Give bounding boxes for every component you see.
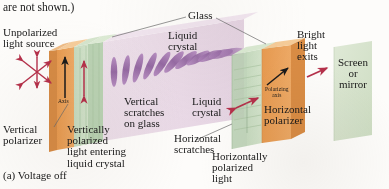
bright-light-exits-arrow bbox=[307, 68, 327, 77]
label-horizontal-polarizer: Horizontal polarizer bbox=[264, 104, 311, 126]
label-vertical-polarizer: Vertical polarizer bbox=[3, 124, 42, 146]
label-unpolarized-light-source: Unpolarized light source bbox=[3, 27, 57, 49]
label-liquid-crystal-mid: Liquid crystal bbox=[192, 96, 221, 118]
label-glass: Glass bbox=[188, 10, 212, 21]
figure-canvas: are not shown.) Unpolarized light source… bbox=[0, 0, 389, 189]
label-vertically-polarized-light: Vertically polarized light entering liqu… bbox=[67, 124, 126, 169]
label-bright-light-exits: Bright light exits bbox=[297, 29, 325, 63]
continuation-note: are not shown.) bbox=[3, 2, 74, 14]
figure-caption: (a) Voltage off bbox=[3, 170, 67, 181]
label-screen-or-mirror: Screen or mirror bbox=[338, 57, 368, 91]
label-horizontally-polarized-light: Horizontally polarized light bbox=[212, 151, 268, 185]
label-axis: Axis bbox=[58, 99, 69, 105]
label-vertical-scratches-on-glass: Vertical scratches on glass bbox=[124, 96, 164, 130]
unpolarized-light-symbol bbox=[23, 57, 51, 88]
label-polarizing-axis: Polarizing axis bbox=[265, 87, 289, 98]
label-liquid-crystal-top: Liquid crystal bbox=[168, 30, 197, 52]
